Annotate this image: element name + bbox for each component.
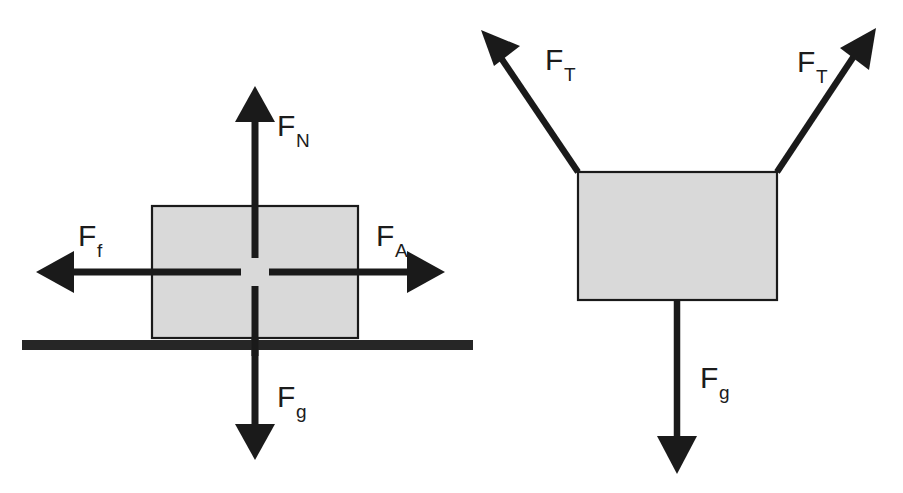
hanging-gravity-arrowhead xyxy=(657,436,697,474)
friction-force-label: F xyxy=(78,219,96,252)
force-vector-gravity-right: F g xyxy=(657,300,730,474)
force-vector-tension-right: F T xyxy=(777,28,876,172)
applied-force-label: F xyxy=(376,219,394,252)
free-body-diagram-figure: F N F g F f xyxy=(0,0,903,493)
hanging-gravity-label-subscript: g xyxy=(719,382,730,403)
tension-left-label-subscript: T xyxy=(564,64,576,85)
gravity-force-label-subscript: g xyxy=(296,401,307,422)
diagram-hanging-block: F T F T F g xyxy=(481,28,876,474)
friction-force-arrowhead xyxy=(36,251,74,293)
gravity-force-label: F xyxy=(277,380,295,413)
tension-right-label: F xyxy=(797,45,815,78)
tension-left-label: F xyxy=(545,43,563,76)
force-vector-tension-left: F T xyxy=(481,30,578,172)
tension-left-arrowhead xyxy=(481,30,520,66)
normal-force-label-subscript: N xyxy=(296,130,310,151)
tension-right-label-subscript: T xyxy=(816,66,828,87)
block-body-right xyxy=(578,172,777,300)
friction-force-label-subscript: f xyxy=(97,240,103,261)
figure-canvas: F N F g F f xyxy=(0,0,903,493)
normal-force-arrowhead xyxy=(235,86,275,122)
diagram-block-on-surface: F N F g F f xyxy=(22,86,473,460)
hanging-gravity-label: F xyxy=(700,361,718,394)
ground-surface-bar xyxy=(22,340,473,350)
applied-force-label-subscript: A xyxy=(395,240,408,261)
applied-force-arrowhead xyxy=(407,251,445,293)
normal-force-label: F xyxy=(277,109,295,142)
gravity-force-arrowhead xyxy=(235,424,275,460)
